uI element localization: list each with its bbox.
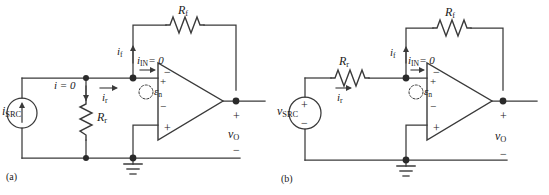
arrow-a-if-head [130,45,136,51]
node-b-output [500,98,507,105]
node-b-summing [403,75,410,82]
label-b-iin: iIN= 0 [408,55,435,67]
resistor-b-rf [433,20,471,36]
opamp-a-noninverting-symbol: + [164,122,171,134]
label-b-rf: Rf [445,6,455,20]
wire-a-feedback-left [133,25,166,77]
arrow-b-ir-head [346,85,352,91]
circuit-b-schematic [275,0,549,195]
resistor-a-rf [166,17,204,33]
opamp-b-noninverting-symbol: + [433,122,440,134]
node-a-top-left [83,75,89,81]
resistor-a-rr [80,100,92,140]
label-a-rr: Rr [97,111,107,125]
label-a-epsilon-minus: − [160,101,166,112]
label-b-src-plus: + [301,99,308,111]
arrow-a-i0-head [83,95,89,101]
caption-a: (a) [6,172,17,182]
label-a-output-plus: + [233,110,240,122]
label-a-i-zero: i = 0 [54,80,75,91]
wire-a-noninv-to-gnd [133,125,158,158]
wire-b-noninv-to-gnd [406,125,427,160]
label-b-output-minus: − [500,148,507,160]
label-a-isrc: iSRC [2,105,21,119]
label-a-epsilon-n: εn [154,86,162,98]
label-a-ir: ir [102,92,108,104]
caption-b: (b) [281,174,293,184]
wire-b-feedback-right [471,28,503,90]
label-a-if: if [117,46,123,58]
node-a-summing [130,75,137,82]
figure-canvas: iSRC Rr Rf i = 0 ir if iIN= 0 εn + − − +… [0,0,549,195]
opamp-a-inverting-symbol: − [164,66,171,78]
arrow-b-iin-head [419,67,425,73]
node-a-ground [130,155,137,162]
label-b-rr: Rr [339,55,349,69]
arrow-b-if-head [403,46,409,52]
label-b-vo: vO [495,130,506,144]
node-b-ground [403,157,410,164]
offset-source-a-circle [139,85,153,99]
circuit-panel-a: iSRC Rr Rf i = 0 ir if iIN= 0 εn + − − +… [0,0,274,195]
opamp-b-inverting-symbol: − [433,66,440,78]
resistor-b-rr [331,70,369,86]
label-b-ir: ir [337,92,343,104]
arrow-a-iin-head [150,67,156,73]
label-a-vo: vO [228,128,239,142]
label-b-output-plus: + [500,110,507,122]
label-a-iin: iIN= 0 [137,55,164,67]
label-b-epsilon-n: εn [424,86,432,98]
circuit-a-schematic [0,0,274,195]
label-b-vsrc: vSRC [277,105,298,119]
circuit-panel-b: vSRC + − Rr Rf ir if iIN= 0 εn + − − + +… [275,0,549,195]
label-a-output-minus: − [233,144,240,156]
node-a-output [233,98,240,105]
label-a-rf: Rf [178,4,188,18]
wire-a-feedback-right [204,25,236,90]
arrow-a-ir-head [112,85,118,91]
label-b-epsilon-minus: − [430,101,436,112]
label-b-if: if [390,47,396,59]
label-b-src-minus: − [301,117,308,129]
offset-source-b-circle [409,85,423,99]
node-a-bottom-left [83,155,89,161]
